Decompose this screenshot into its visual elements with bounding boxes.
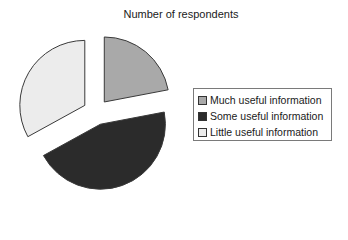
legend-swatch-little [198,128,207,137]
legend-label-some: Some useful information [210,110,323,122]
pie-slice-little [20,40,85,136]
pie-slice-some [43,112,165,189]
legend-item-much: Much useful information [198,92,331,108]
legend-label-much: Much useful information [210,94,321,106]
legend-label-little: Little useful information [210,126,318,138]
legend: Much useful information Some useful info… [193,88,332,141]
legend-item-little: Little useful information [198,124,331,140]
legend-swatch-some [198,112,207,121]
legend-swatch-much [198,96,207,105]
pie-slice-much [104,37,168,102]
legend-item-some: Some useful information [198,108,331,124]
